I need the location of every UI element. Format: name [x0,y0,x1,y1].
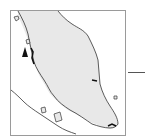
island-penang [26,39,30,44]
peninsula-landmass [18,11,118,129]
coast-detail-east [92,80,97,81]
island-south-2 [54,112,62,122]
island-north [14,16,19,21]
island-southeast [114,96,117,99]
island-south-1 [41,107,46,113]
location-marker-icon [22,47,28,57]
peninsula-map [0,0,145,140]
leader-line [128,72,145,73]
